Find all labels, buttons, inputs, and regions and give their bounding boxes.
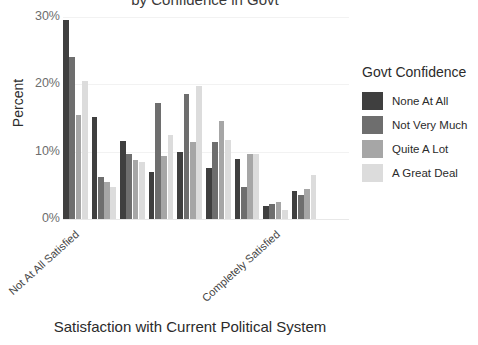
legend-swatch-icon	[362, 116, 383, 134]
bar[interactable]	[311, 175, 317, 219]
legend-swatch-icon	[362, 164, 383, 182]
bar[interactable]	[212, 142, 218, 219]
bar[interactable]	[225, 140, 231, 219]
bar[interactable]	[133, 160, 139, 219]
bar[interactable]	[69, 57, 75, 219]
bar[interactable]	[184, 94, 190, 219]
bar[interactable]	[126, 154, 132, 219]
legend-items: None At AllNot Very MuchQuite A LotA Gre…	[362, 89, 478, 184]
bar-group	[263, 17, 292, 219]
bar[interactable]	[168, 135, 174, 219]
bar[interactable]	[177, 152, 183, 219]
bar[interactable]	[276, 202, 282, 219]
bar[interactable]	[269, 204, 275, 219]
bar[interactable]	[161, 156, 167, 219]
bar-group	[63, 17, 92, 219]
bar-group	[235, 17, 264, 219]
x-tick-label: Completely Satisfied	[199, 228, 282, 304]
legend-item[interactable]: None At All	[362, 89, 478, 112]
bar-group	[320, 17, 349, 219]
y-tick-label: 0%	[14, 211, 60, 225]
bar[interactable]	[219, 121, 225, 219]
bar[interactable]	[298, 195, 304, 219]
bar[interactable]	[282, 210, 288, 219]
bar-group	[92, 17, 121, 219]
bar[interactable]	[241, 187, 247, 219]
bar[interactable]	[139, 162, 145, 219]
legend-item[interactable]: Not Very Much	[362, 113, 478, 136]
bar-group	[120, 17, 149, 219]
legend-swatch-icon	[362, 140, 383, 158]
bar[interactable]	[76, 115, 82, 219]
bar[interactable]	[263, 206, 269, 219]
bar[interactable]	[104, 182, 110, 219]
chart-title: by Confidence in Govt	[60, 0, 350, 8]
bar[interactable]	[110, 187, 116, 219]
legend-title: Govt Confidence	[362, 64, 478, 80]
bar[interactable]	[82, 81, 88, 219]
x-axis-line	[63, 219, 349, 220]
bar[interactable]	[149, 172, 155, 219]
chart-container: by Confidence in Govt Percent 0%10%20%30…	[0, 0, 478, 345]
legend: Govt Confidence None At AllNot Very Much…	[362, 64, 478, 185]
bar[interactable]	[63, 20, 69, 219]
bar[interactable]	[247, 154, 253, 219]
bar[interactable]	[206, 168, 212, 219]
legend-label: Quite A Lot	[392, 143, 448, 155]
bar-group	[177, 17, 206, 219]
legend-item[interactable]: Quite A Lot	[362, 137, 478, 160]
y-tick-label: 10%	[14, 144, 60, 158]
bar-group	[149, 17, 178, 219]
bar[interactable]	[235, 159, 241, 219]
legend-label: None At All	[392, 95, 448, 107]
bar-group	[292, 17, 321, 219]
legend-label: A Great Deal	[392, 167, 458, 179]
y-tick-label: 20%	[14, 76, 60, 90]
plot-area	[63, 17, 349, 219]
y-tick-label: 30%	[14, 9, 60, 23]
bar[interactable]	[190, 142, 196, 219]
legend-label: Not Very Much	[392, 119, 467, 131]
bar[interactable]	[196, 86, 202, 219]
bar[interactable]	[304, 189, 310, 219]
bar[interactable]	[155, 103, 161, 219]
bar[interactable]	[120, 141, 126, 219]
bar[interactable]	[98, 177, 104, 219]
bar-group	[206, 17, 235, 219]
y-axis-ticks: 0%10%20%30%	[0, 0, 60, 345]
bar[interactable]	[292, 191, 298, 219]
bar[interactable]	[92, 117, 98, 219]
legend-item[interactable]: A Great Deal	[362, 161, 478, 184]
bar[interactable]	[253, 154, 259, 219]
x-axis-title: Satisfaction with Current Political Syst…	[0, 318, 380, 335]
legend-swatch-icon	[362, 92, 383, 110]
